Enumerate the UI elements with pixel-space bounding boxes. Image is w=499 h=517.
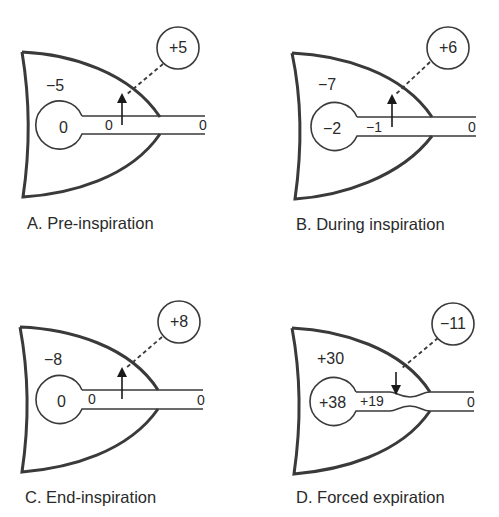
arrow-down-icon bbox=[391, 385, 401, 395]
dashed-leader-line bbox=[126, 337, 162, 368]
airway-pressure-label: +19 bbox=[360, 394, 384, 408]
transmural-pressure-label: −11 bbox=[431, 316, 475, 332]
panel-caption: D. Forced expiration bbox=[296, 489, 445, 506]
airway-pressure-label: 0 bbox=[88, 392, 96, 406]
lung-diagram-c bbox=[0, 260, 250, 517]
transmural-pressure-label: +8 bbox=[157, 314, 201, 330]
arrow-up-icon bbox=[117, 367, 127, 377]
panel-b-during-inspiration: −7 −2 −1 0 +6 B. During inspiration bbox=[250, 0, 499, 258]
alveolar-pressure-label: −2 bbox=[323, 121, 341, 137]
pleural-pressure-label: −7 bbox=[318, 77, 336, 93]
pleural-boundary bbox=[292, 53, 432, 199]
dashed-leader-line bbox=[396, 62, 430, 94]
pleural-boundary bbox=[22, 52, 160, 197]
arrow-up-icon bbox=[117, 93, 127, 103]
mouth-pressure-label: 0 bbox=[199, 118, 207, 132]
arrow-up-icon bbox=[387, 94, 397, 104]
mouth-pressure-label: 0 bbox=[197, 393, 205, 407]
pleural-pressure-label: +30 bbox=[317, 351, 344, 367]
alveolar-pressure-label: 0 bbox=[59, 120, 68, 136]
panel-caption: C. End-inspiration bbox=[25, 489, 156, 506]
lung-diagram-d bbox=[250, 260, 499, 517]
dashed-leader-line bbox=[126, 64, 163, 95]
pleural-pressure-label: −8 bbox=[44, 352, 62, 368]
panel-a-pre-inspiration: −5 0 0 0 +5 A. Pre-inspiration bbox=[0, 0, 250, 258]
panel-caption: A. Pre-inspiration bbox=[27, 215, 154, 232]
dashed-leader-line bbox=[402, 338, 438, 368]
mouth-pressure-label: 0 bbox=[468, 120, 476, 134]
alveolar-pressure-label: 0 bbox=[57, 394, 66, 410]
panel-caption: B. During inspiration bbox=[296, 216, 445, 233]
transmural-pressure-label: +6 bbox=[426, 40, 470, 56]
airway-pressure-label: −1 bbox=[366, 120, 382, 134]
transmural-pressure-label: +5 bbox=[156, 40, 200, 56]
pleural-pressure-label: −5 bbox=[46, 78, 64, 94]
airway-pressure-label: 0 bbox=[105, 118, 113, 132]
panel-c-end-inspiration: −8 0 0 0 +8 C. End-inspiration bbox=[0, 260, 250, 517]
panel-d-forced-expiration: +30 +38 +19 0 −11 D. Forced expiration bbox=[250, 260, 499, 517]
alveolar-pressure-label: +38 bbox=[319, 395, 346, 411]
mouth-pressure-label: 0 bbox=[467, 395, 475, 409]
